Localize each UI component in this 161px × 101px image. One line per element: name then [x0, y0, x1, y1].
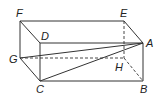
vertex-label-H: H	[115, 61, 123, 73]
hidden-edge-HB	[124, 58, 143, 81]
vertex-label-A: A	[145, 37, 153, 49]
cuboid-diagram: F E D A G H C B	[0, 0, 161, 101]
vertex-label-D: D	[41, 30, 49, 42]
vertex-label-E: E	[120, 7, 128, 19]
diagonal-GA	[20, 43, 143, 58]
vertex-label-F: F	[16, 7, 24, 19]
edge-GC	[20, 58, 40, 81]
vertex-label-G: G	[9, 53, 18, 65]
vertex-label-C: C	[36, 83, 44, 95]
edge-FD	[20, 21, 40, 43]
vertex-label-B: B	[140, 83, 147, 95]
edge-EA	[124, 21, 143, 43]
